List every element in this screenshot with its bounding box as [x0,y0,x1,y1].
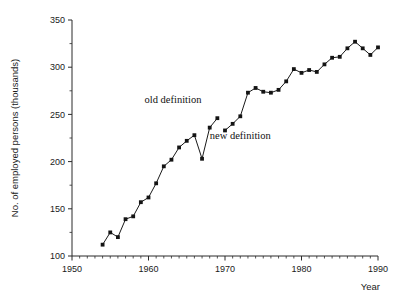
data-point-marker [177,146,181,150]
data-point-marker [300,71,304,75]
data-point-marker [338,55,342,59]
data-point-marker [284,79,288,83]
data-point-marker [315,70,319,74]
y-tick-label: 350 [50,15,65,25]
y-tick-label: 300 [50,62,65,72]
data-point-marker [131,214,135,218]
data-point-marker [292,67,296,71]
y-tick-label: 150 [50,204,65,214]
employment-line-chart: 100150200250300350 19501960197019801990 … [0,0,403,303]
data-point-marker [200,157,204,161]
x-tick-label: 1990 [368,264,388,274]
data-point-marker [170,158,174,162]
x-tick-label: 1950 [62,264,82,274]
data-point-marker [193,133,197,137]
annotation-new-definition: new definition [210,130,272,141]
data-point-marker [353,40,357,44]
y-tick-label: 200 [50,157,65,167]
data-point-marker [368,53,372,57]
data-point-marker [277,88,281,92]
data-point-marker [215,116,219,120]
data-point-marker [307,68,311,72]
data-point-marker [108,231,112,235]
annotation-old-definition: old definition [145,94,203,105]
data-point-marker [330,56,334,60]
x-tick-label: 1960 [138,264,158,274]
data-point-marker [154,181,158,185]
data-point-marker [346,46,350,50]
x-tick-label: 1980 [291,264,311,274]
y-tick-label: 250 [50,110,65,120]
y-axis-title: No. of employed persons (thousands) [9,59,20,217]
x-axis-title: Year [361,281,380,292]
data-point-marker [361,46,365,50]
data-point-marker [208,126,212,130]
data-point-marker [376,45,380,49]
y-tick-label: 100 [50,251,65,261]
data-point-marker [124,217,128,221]
data-point-marker [185,139,189,143]
data-point-marker [162,164,166,168]
data-point-marker [254,86,258,90]
data-point-marker [116,235,120,239]
chart-figure: 100150200250300350 19501960197019801990 … [0,0,403,303]
x-tick-label: 1970 [215,264,235,274]
data-point-marker [238,114,242,118]
data-point-marker [101,243,105,247]
data-point-marker [261,90,265,94]
data-point-marker [139,200,143,204]
data-point-marker [269,91,273,95]
data-point-marker [323,62,327,66]
data-point-marker [231,122,235,126]
data-point-marker [246,91,250,95]
data-point-marker [147,196,151,200]
